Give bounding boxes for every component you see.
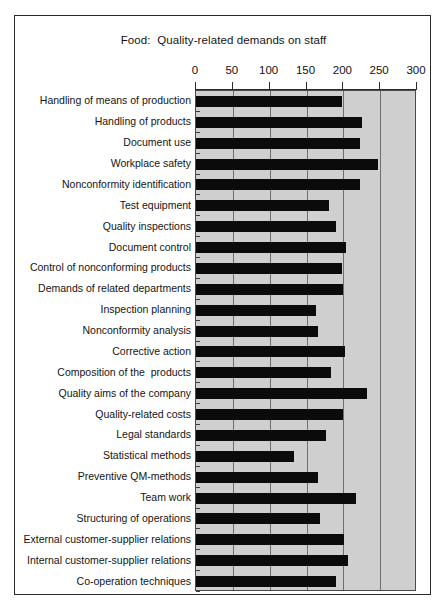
y-category-label: Co-operation techniques: [23, 575, 191, 587]
y-category-label: Document use: [23, 136, 191, 148]
bar-row: [196, 175, 415, 196]
y-category-label: Handling of means of production: [23, 94, 191, 106]
bar: [196, 159, 378, 170]
bar-row: [196, 404, 415, 425]
y-category-label: Quality aims of the company: [23, 387, 191, 399]
bar-row: [196, 550, 415, 571]
x-tick-label: 0: [192, 64, 198, 76]
y-category-label: Control of nonconforming products: [23, 261, 191, 273]
bar: [196, 472, 318, 483]
bar: [196, 451, 294, 462]
y-category-label: External customer-supplier relations: [23, 533, 191, 545]
bar-row: [196, 488, 415, 509]
plot-area: [195, 90, 416, 591]
y-tick-mark: [196, 591, 200, 592]
bar-row: [196, 154, 415, 175]
y-category-label: Composition of the products: [23, 366, 191, 378]
bar: [196, 117, 362, 128]
x-tick-mark: [416, 82, 417, 90]
y-category-label: Handling of products: [23, 115, 191, 127]
bar-row: [196, 529, 415, 550]
bar-row: [196, 279, 415, 300]
x-tick-label: 50: [225, 64, 238, 76]
bar-row: [196, 362, 415, 383]
y-category-label: Team work: [23, 491, 191, 503]
bar: [196, 200, 329, 211]
bar: [196, 242, 346, 253]
y-category-label: Document control: [23, 241, 191, 253]
bar-row: [196, 321, 415, 342]
bar-row: [196, 509, 415, 530]
y-category-label: Statistical methods: [23, 449, 191, 461]
bar-row: [196, 571, 415, 592]
bar: [196, 326, 318, 337]
bar: [196, 534, 344, 545]
bar-row: [196, 258, 415, 279]
bar-row: [196, 112, 415, 133]
bar: [196, 367, 331, 378]
y-category-label: Demands of related departments: [23, 282, 191, 294]
y-category-label: Inspection planning: [23, 303, 191, 315]
bar-row: [196, 300, 415, 321]
bar-row: [196, 446, 415, 467]
y-category-label: Internal customer-supplier relations: [23, 554, 191, 566]
x-tick-label: 150: [296, 64, 315, 76]
bar: [196, 493, 356, 504]
y-category-label: Quality inspections: [23, 220, 191, 232]
y-category-label: Workplace safety: [23, 157, 191, 169]
x-axis-tick-labels: 050100150200250300: [195, 64, 416, 84]
y-category-label: Nonconformity analysis: [23, 324, 191, 336]
bar: [196, 576, 336, 587]
x-tick-label: 100: [259, 64, 278, 76]
bar-row: [196, 133, 415, 154]
bar: [196, 305, 316, 316]
y-category-label: Test equipment: [23, 199, 191, 211]
bar-row: [196, 237, 415, 258]
y-category-label: Legal standards: [23, 428, 191, 440]
chart-frame: Food: Quality-related demands on staff 0…: [14, 15, 431, 595]
y-category-label: Structuring of operations: [23, 512, 191, 524]
bar: [196, 138, 360, 149]
bar: [196, 430, 326, 441]
x-tick-label: 300: [406, 64, 425, 76]
figure-page: Food: Quality-related demands on staff 0…: [0, 0, 445, 609]
x-tick-label: 250: [370, 64, 389, 76]
chart-title: Food: Quality-related demands on staff: [15, 34, 432, 46]
y-category-label: Preventive QM-methods: [23, 470, 191, 482]
bar-row: [196, 216, 415, 237]
bar-row: [196, 91, 415, 112]
bar: [196, 284, 343, 295]
bar-row: [196, 467, 415, 488]
bar: [196, 409, 343, 420]
bar: [196, 221, 336, 232]
plot-wrapper: [195, 90, 416, 591]
y-category-label: Quality-related costs: [23, 408, 191, 420]
y-axis-category-labels: Handling of means of productionHandling …: [23, 90, 191, 591]
bar: [196, 179, 360, 190]
bar: [196, 513, 320, 524]
bar: [196, 263, 342, 274]
bar-row: [196, 195, 415, 216]
bar: [196, 96, 342, 107]
x-tick-label: 200: [333, 64, 352, 76]
bar: [196, 388, 367, 399]
y-category-label: Nonconformity identification: [23, 178, 191, 190]
y-category-label: Corrective action: [23, 345, 191, 357]
bar-row: [196, 342, 415, 363]
bar-row: [196, 425, 415, 446]
bar: [196, 346, 345, 357]
bar-row: [196, 383, 415, 404]
bar: [196, 555, 348, 566]
